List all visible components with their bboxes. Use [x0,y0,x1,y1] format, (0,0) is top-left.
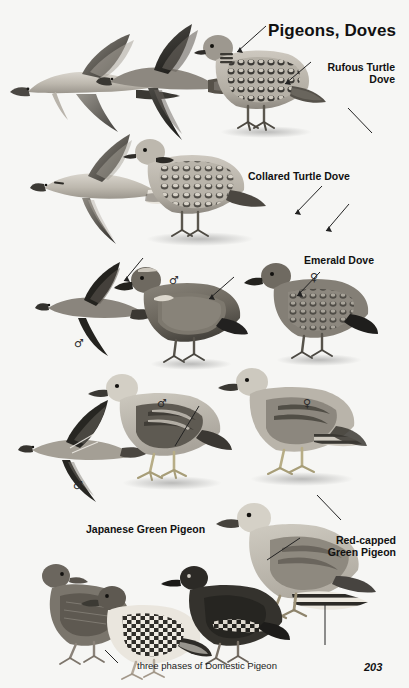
figure-shadow [122,476,222,490]
sex-symbol-japanese-green-pigeon-male: ♂ [157,398,167,409]
sex-symbol-emerald-dove-male: ♂ [169,275,179,286]
figure-collared-turtle-dove-perched [126,128,266,248]
figure-shadow [146,232,254,246]
figure-japanese-green-pigeon-male-perched [92,366,232,496]
sex-symbol-emerald-dove-flight-male: ♂ [74,338,84,349]
sex-symbol-green-pigeon-flight-male: ♂ [73,480,83,491]
figure-shadow [250,472,354,486]
sex-symbol-japanese-green-pigeon-female: ♀ [303,398,311,409]
domestic-pigeon-caption: three phases of Domestic Pigeon [137,660,277,671]
label-rufous-turtle-dove: Rufous Turtle Dove [255,62,395,86]
figure-domestic-pigeon-phase-3 [160,560,290,670]
label-red-capped-green-pigeon: Red-capped Green Pigeon [258,535,396,559]
page-title: Pigeons, Doves [268,21,396,40]
figure-emerald-dove-female-perched [248,252,378,370]
figure-japanese-green-pigeon-female-perched [222,362,367,494]
page-number: 203 [364,661,382,673]
sex-symbol-emerald-dove-female: ♀ [310,272,318,283]
field-guide-plate: Pigeons, Doves Rufous Turtle Dove Collar… [0,0,409,688]
figure-emerald-dove-male-perched [118,258,248,373]
label-japanese-green-pigeon: Japanese Green Pigeon [86,524,205,536]
label-collared-turtle-dove: Collared Turtle Dove [248,171,350,183]
label-emerald-dove: Emerald Dove [304,255,374,267]
